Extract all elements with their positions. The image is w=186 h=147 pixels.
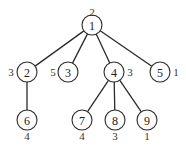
node-label: 5	[157, 66, 163, 80]
node-weight: 4	[79, 130, 85, 142]
tree-node-3: 35	[50, 62, 78, 82]
tree-node-2: 23	[8, 62, 37, 82]
node-label: 3	[65, 66, 71, 80]
tree-node-9: 91	[137, 110, 157, 142]
tree-node-4: 43	[104, 62, 133, 82]
edges-group	[27, 31, 152, 112]
node-weight: 2	[89, 6, 95, 18]
tree-node-6: 64	[17, 110, 37, 142]
node-weight: 1	[144, 130, 150, 142]
edge-4-7	[88, 80, 109, 111]
node-label: 1	[89, 19, 95, 33]
tree-node-8: 83	[105, 110, 125, 142]
node-weight: 4	[24, 130, 30, 142]
edge-1-2	[35, 31, 84, 66]
node-weight: 3	[112, 130, 118, 142]
tree-diagram: 122335435164748391	[0, 0, 186, 147]
node-label: 2	[24, 66, 30, 80]
node-weight: 1	[173, 66, 179, 78]
edge-1-3	[73, 34, 88, 63]
edge-1-4	[96, 34, 110, 63]
tree-node-1: 12	[82, 6, 102, 35]
node-label: 6	[24, 114, 30, 128]
node-weight: 3	[127, 66, 133, 78]
node-label: 4	[111, 66, 117, 80]
edge-4-8	[114, 82, 115, 110]
node-weight: 3	[8, 66, 14, 78]
edge-4-9	[120, 80, 142, 112]
nodes-group: 122335435164748391	[8, 6, 179, 142]
node-label: 8	[112, 114, 118, 128]
node-label: 9	[144, 114, 150, 128]
tree-node-7: 74	[72, 110, 92, 142]
tree-node-5: 51	[150, 62, 179, 82]
node-label: 7	[79, 114, 85, 128]
node-weight: 5	[50, 66, 56, 78]
edge-1-5	[100, 31, 152, 67]
